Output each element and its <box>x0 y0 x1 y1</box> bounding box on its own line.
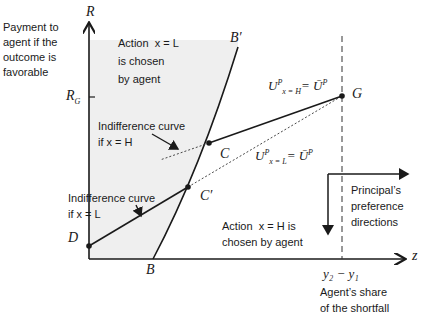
region-right-label: Action x = H is chosen by agent <box>222 218 303 250</box>
indiff-l-label: Indifference curve if x = L <box>68 190 155 222</box>
principal-pref-label: Principal’s preference directions <box>351 182 404 230</box>
point-D <box>86 243 92 249</box>
point-label-Bprime: B′ <box>230 30 242 46</box>
point-G <box>339 93 345 99</box>
u-l-label: UPx = L= ŪP <box>255 148 313 166</box>
indifference-line-H-solid <box>209 96 342 143</box>
point-label-D: D <box>68 230 78 246</box>
point-label-Cprime: C′ <box>200 188 212 204</box>
point-label-B: B <box>146 262 155 278</box>
y-axis-symbol: R <box>86 4 95 20</box>
region-left-label: Action x = L is chosen by agent <box>118 34 179 88</box>
r-g-label: RG <box>66 88 80 106</box>
point-label-G: G <box>352 86 362 102</box>
point-C <box>206 140 212 146</box>
indiff-h-label: Indifference curve if x = H <box>98 118 185 150</box>
x-axis-symbol: z <box>412 248 417 264</box>
u-h-label: UPx = H= ŪP <box>268 78 327 96</box>
point-label-C: C <box>220 146 229 162</box>
y-axis-title: Payment to agent if the outcome is favor… <box>3 20 59 80</box>
x-tick-caption: Agent’s share of the shortfall <box>320 284 389 316</box>
diagram-canvas <box>0 0 436 324</box>
x-tick-label: y₂ − y₁ <box>323 266 359 282</box>
point-Cprime <box>185 184 191 190</box>
